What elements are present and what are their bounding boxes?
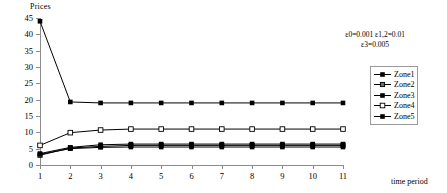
- x-axis-title: time period: [391, 177, 428, 186]
- series-point: [68, 146, 73, 151]
- series-point: [189, 101, 194, 106]
- series-point: [98, 101, 103, 106]
- series-point: [341, 101, 346, 106]
- y-tick-label: 15: [25, 112, 34, 121]
- series-point: [310, 127, 315, 132]
- series-point: [250, 127, 255, 132]
- series-point: [280, 101, 285, 106]
- legend-item-zone4[interactable]: Zone4: [373, 101, 414, 112]
- series-point: [68, 130, 73, 135]
- legend-marker: [380, 114, 385, 119]
- series-lines: [40, 18, 343, 166]
- series-point: [68, 100, 73, 105]
- series-point: [189, 145, 194, 150]
- legend-label: Zone3: [392, 91, 414, 100]
- x-tick-label: 1: [38, 172, 42, 181]
- series-zone1: [38, 19, 346, 105]
- x-tick-label: 6: [189, 172, 193, 181]
- series-point: [310, 101, 315, 106]
- series-point: [38, 152, 43, 157]
- legend-marker-icon: [373, 101, 392, 110]
- y-tick-label: 40: [25, 30, 34, 39]
- legend-item-zone2[interactable]: Zone2: [373, 80, 414, 91]
- legend-label: Zone2: [392, 80, 414, 89]
- y-tick-label: 10: [25, 128, 34, 137]
- annotation-line-1: ε0=0.001 ε1,2=0.01: [345, 30, 405, 40]
- series-point: [98, 128, 103, 133]
- legend-marker-icon: [373, 112, 392, 121]
- y-tick-label: 35: [25, 47, 34, 56]
- y-tick-label: 0: [29, 161, 33, 170]
- series-point: [129, 145, 134, 150]
- series-point: [38, 143, 43, 148]
- x-tick-label: 7: [220, 172, 224, 181]
- y-tick-label: 5: [29, 145, 33, 154]
- legend-marker-icon: [373, 80, 392, 89]
- x-tick-label: 5: [159, 172, 163, 181]
- series-point: [129, 127, 134, 132]
- series-point: [341, 145, 346, 150]
- series-point: [129, 101, 134, 106]
- series-point: [310, 145, 315, 150]
- series-point: [280, 127, 285, 132]
- legend-marker: [380, 83, 384, 87]
- legend-item-zone5[interactable]: Zone5: [373, 111, 414, 122]
- x-tick-label: 3: [98, 172, 102, 181]
- price-line-chart: Prices 051015202530354045 1234567891011 …: [0, 0, 447, 193]
- legend-marker: [380, 72, 385, 77]
- series-point: [220, 101, 225, 106]
- series-point: [280, 145, 285, 150]
- annotation-line-2: ε3=0.005: [345, 40, 405, 50]
- legend-label: Zone5: [392, 112, 414, 121]
- legend-marker-icon: [373, 70, 392, 79]
- plot-area: 051015202530354045 1234567891011: [40, 18, 343, 166]
- series-point: [159, 101, 164, 106]
- x-tick-label: 9: [280, 172, 284, 181]
- y-tick-label: 45: [25, 14, 34, 23]
- x-tick-label: 11: [339, 172, 347, 181]
- series-point: [220, 145, 225, 150]
- legend-item-zone1[interactable]: Zone1: [373, 69, 414, 80]
- legend-marker-icon: [373, 91, 392, 100]
- series-point: [159, 145, 164, 150]
- series-point: [220, 127, 225, 132]
- legend-marker: [380, 93, 385, 98]
- series-point: [250, 101, 255, 106]
- y-axis-title: Prices: [30, 2, 51, 11]
- x-tick-label: 10: [308, 172, 317, 181]
- series-point: [341, 127, 346, 132]
- x-tick-label: 2: [68, 172, 72, 181]
- x-tick-label: 4: [129, 172, 133, 181]
- x-tick: [343, 165, 344, 169]
- legend-marker: [380, 103, 385, 108]
- x-tick-label: 8: [250, 172, 254, 181]
- series-line: [40, 21, 343, 103]
- legend-label: Zone4: [392, 101, 414, 110]
- series-point: [250, 145, 255, 150]
- series-point: [159, 127, 164, 132]
- y-tick-label: 25: [25, 79, 34, 88]
- legend-item-zone3[interactable]: Zone3: [373, 90, 414, 101]
- y-tick-label: 30: [25, 63, 34, 72]
- chart-legend: Zone1Zone2Zone3Zone4Zone5: [370, 66, 418, 125]
- series-point: [38, 19, 43, 24]
- legend-label: Zone1: [392, 70, 414, 79]
- parameter-annotation: ε0=0.001 ε1,2=0.01 ε3=0.005: [345, 30, 405, 50]
- series-point: [189, 127, 194, 132]
- y-tick-label: 20: [25, 96, 34, 105]
- series-point: [98, 145, 103, 150]
